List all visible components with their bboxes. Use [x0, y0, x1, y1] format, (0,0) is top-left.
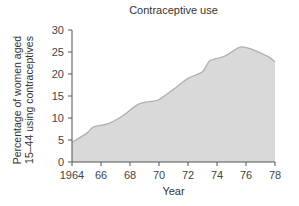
x-tick-label: 66 [95, 169, 107, 181]
y-tick-label: 0 [58, 156, 64, 168]
x-tick-label: 68 [124, 169, 136, 181]
x-tick-label: 76 [240, 169, 252, 181]
y-tick-label: 5 [58, 134, 64, 146]
y-tick-label: 15 [52, 90, 64, 102]
x-tick-label: 78 [269, 169, 281, 181]
y-tick-label: 25 [52, 46, 64, 58]
x-tick-label: 70 [153, 169, 165, 181]
area-fill [72, 47, 275, 162]
y-tick-label: 10 [52, 112, 64, 124]
area-chart: 051015202530196466687072747678 [0, 0, 299, 206]
y-tick-label: 20 [52, 68, 64, 80]
y-tick-label: 30 [52, 24, 64, 36]
x-tick-label: 74 [211, 169, 223, 181]
x-tick-label: 72 [182, 169, 194, 181]
plot-area [72, 47, 275, 162]
x-tick-label: 1964 [60, 169, 84, 181]
